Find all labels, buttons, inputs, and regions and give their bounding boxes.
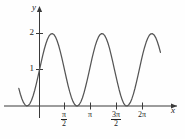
fraction-pi-over-2: π 2 xyxy=(61,111,67,129)
x-tick-label-2pi: 2π xyxy=(138,111,146,119)
fraction-numerator: 3π xyxy=(111,111,121,119)
sine-curve xyxy=(19,34,161,106)
fraction-3pi-over-2: 3π 2 xyxy=(111,111,121,129)
fraction-denominator: 2 xyxy=(111,120,121,128)
x-tick-label-3pi-over-2: 3π 2 xyxy=(111,111,121,129)
x-axis-label: x xyxy=(171,106,175,115)
x-tick-label-pi-over-2: π 2 xyxy=(61,111,67,129)
x-tick-text-2pi: 2π xyxy=(138,111,146,119)
y-tick-label-2: 2 xyxy=(22,28,34,37)
fraction-denominator: 2 xyxy=(61,120,67,128)
x-tick-text-pi: π xyxy=(88,111,92,119)
trig-graph-figure: y x 2 1 π 2 π 3π 2 2π xyxy=(0,0,185,139)
y-axis-label: y xyxy=(32,3,36,12)
fraction-numerator: π xyxy=(61,111,67,119)
x-tick-label-pi: π xyxy=(88,111,92,119)
y-axis-arrowhead xyxy=(37,6,42,12)
y-tick-label-1: 1 xyxy=(22,64,34,73)
